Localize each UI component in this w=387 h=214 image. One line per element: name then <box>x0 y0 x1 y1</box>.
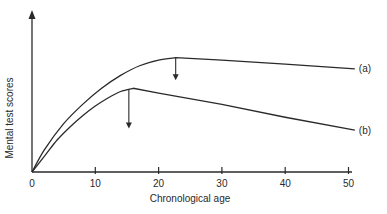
chart: 01020304050 (a)(b) Chronological age Men… <box>0 0 387 214</box>
x-axis-label: Chronological age <box>150 193 231 204</box>
series: (a)(b) <box>32 58 371 172</box>
x-tick-label: 0 <box>29 178 35 189</box>
y-axis-arrow-icon <box>29 10 36 19</box>
series-line-a <box>32 58 355 172</box>
x-tick-label: 50 <box>343 178 355 189</box>
series-label-a: (a) <box>359 63 371 74</box>
x-ticks: 01020304050 <box>29 167 354 189</box>
series-line-b <box>32 88 355 172</box>
arrow-down-icon <box>126 123 132 129</box>
series-label-b: (b) <box>359 125 371 136</box>
axes <box>29 10 353 172</box>
y-axis-label: Mental test scores <box>4 77 15 158</box>
x-tick-label: 30 <box>216 178 228 189</box>
x-tick-label: 40 <box>280 178 292 189</box>
x-tick-label: 10 <box>90 178 102 189</box>
x-tick-label: 20 <box>153 178 165 189</box>
arrow-down-icon <box>173 74 179 80</box>
